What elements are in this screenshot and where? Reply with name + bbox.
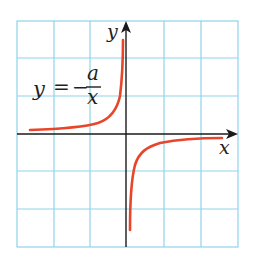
equation-equals: = bbox=[53, 75, 70, 99]
x-axis-label: x bbox=[219, 136, 230, 158]
equation-denominator: x bbox=[87, 85, 98, 109]
y-axis-label: y bbox=[106, 20, 118, 42]
equation-numerator: a bbox=[87, 61, 99, 85]
curve-branch-right bbox=[130, 138, 222, 230]
equation-lhs: y bbox=[32, 77, 46, 101]
hyperbola-graph: y x y = − a x bbox=[0, 0, 254, 254]
equation-label: y = − a x bbox=[32, 61, 101, 109]
